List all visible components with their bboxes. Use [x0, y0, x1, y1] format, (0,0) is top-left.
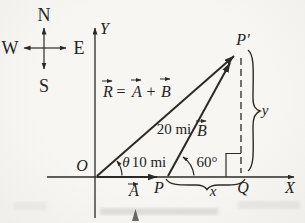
x-component-brace	[166, 179, 245, 190]
compass-south-label: S	[39, 76, 49, 96]
sixty-degree-angle-arc	[183, 157, 194, 176]
x-axis-label: X	[284, 179, 296, 196]
equation-r-symbol: R	[102, 83, 113, 100]
right-angle-marker	[226, 154, 241, 177]
vector-a-symbol-label: A	[128, 182, 139, 199]
point-p-prime-label: P′	[235, 31, 250, 48]
compass-north-label: N	[38, 5, 51, 25]
equation-a-symbol: A	[131, 83, 142, 100]
vector-b-symbol-label: B	[197, 122, 207, 139]
sixty-degree-angle-label: 60°	[197, 154, 218, 170]
figure-page: N S W E Y X O R	[0, 0, 305, 223]
theta-angle-label: θ	[122, 154, 130, 170]
scan-artifact-smudge	[100, 208, 218, 215]
resultant-magnitude-label: 20 mi	[157, 121, 192, 137]
point-p-label: P	[153, 179, 164, 196]
vector-equation: R = A + B	[102, 79, 171, 100]
vector-addition-diagram: N S W E Y X O R	[0, 0, 305, 223]
y-component-brace	[248, 50, 260, 171]
y-component-label: y	[260, 102, 269, 118]
equation-plus-sign: +	[146, 83, 155, 100]
compass-rose: N S W E	[2, 5, 85, 96]
x-component-label: x	[209, 183, 217, 199]
compass-east-label: E	[74, 38, 85, 58]
vector-a-magnitude-label: 10 mi	[132, 154, 167, 170]
diagram-labels: 20 mi B θ 10 mi 60° P′ P Q x y A	[122, 31, 268, 199]
equation-equals-sign: =	[116, 83, 125, 100]
scan-artifact-smudge	[238, 201, 300, 209]
scan-artifact-smudge	[14, 202, 46, 210]
compass-west-label: W	[2, 38, 19, 58]
equation-b-symbol: B	[161, 83, 171, 100]
scan-artifacts	[14, 201, 300, 221]
point-q-label: Q	[237, 179, 249, 196]
theta-angle-arc	[117, 161, 122, 176]
y-axis-label: Y	[100, 20, 111, 37]
origin-label: O	[76, 157, 88, 174]
